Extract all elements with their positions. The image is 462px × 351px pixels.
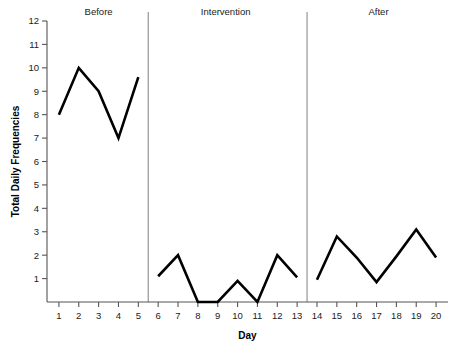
x-tick-label: 3 <box>96 310 101 321</box>
x-tick-label: 19 <box>411 310 422 321</box>
x-tick-label: 1 <box>56 310 61 321</box>
x-tick-label: 2 <box>76 310 81 321</box>
chart-background <box>0 0 462 351</box>
x-tick-label: 17 <box>371 310 382 321</box>
y-tick-label: 11 <box>29 39 39 50</box>
y-tick-label: 1 <box>34 273 39 284</box>
phase-label-intervention: Intervention <box>201 6 251 17</box>
chart-container: 123456789101112 123456789101112131415161… <box>0 0 462 351</box>
y-tick-label: 7 <box>34 132 39 143</box>
phase-label-before: Before <box>85 6 113 17</box>
x-tick-label: 15 <box>332 310 343 321</box>
x-tick-label: 16 <box>351 310 362 321</box>
y-tick-label: 4 <box>34 203 39 214</box>
x-tick-label: 6 <box>156 310 161 321</box>
y-tick-label: 12 <box>28 15 39 26</box>
y-tick-label: 8 <box>34 109 39 120</box>
line-chart: 123456789101112 123456789101112131415161… <box>0 0 462 351</box>
x-tick-label: 20 <box>431 310 442 321</box>
y-tick-label: 9 <box>34 86 39 97</box>
x-tick-label: 10 <box>232 310 243 321</box>
y-axis-title: Total Daily Frequencies <box>10 105 21 217</box>
y-tick-label: 10 <box>28 62 39 73</box>
x-tick-label: 5 <box>136 310 141 321</box>
x-tick-label: 7 <box>175 310 180 321</box>
y-tick-label: 2 <box>34 250 39 261</box>
x-axis-title: Day <box>238 330 257 341</box>
y-tick-label: 3 <box>34 226 39 237</box>
x-tick-label: 14 <box>312 310 323 321</box>
x-tick-label: 12 <box>272 310 283 321</box>
y-tick-label: 6 <box>34 156 39 167</box>
x-tick-label: 18 <box>391 310 402 321</box>
x-tick-label: 8 <box>195 310 200 321</box>
x-tick-label: 9 <box>215 310 220 321</box>
x-tick-label: 4 <box>116 310 121 321</box>
phase-label-after: After <box>368 6 388 17</box>
x-tick-label: 11 <box>252 310 262 321</box>
x-tick-label: 13 <box>292 310 303 321</box>
y-tick-label: 5 <box>34 179 39 190</box>
